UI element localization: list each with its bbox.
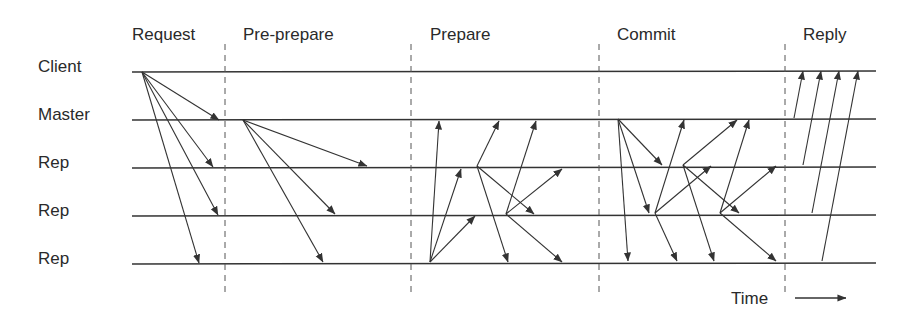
message-arrow-prepare: [477, 121, 499, 166]
phase-label-reply: Reply: [803, 26, 846, 43]
message-arrow-commit: [655, 213, 677, 261]
phase-label-pre-prepare: Pre-prepare: [243, 26, 334, 43]
message-arrow-prepare: [506, 169, 562, 214]
message-arrow-commit: [655, 166, 711, 213]
node-timelines: [132, 71, 876, 264]
message-arrow-pre-prepare: [243, 120, 323, 262]
message-arrow-commit: [683, 165, 739, 213]
time-axis-label: Time: [731, 290, 768, 307]
message-arrow-commit: [683, 165, 714, 261]
node-label-master: Master: [38, 106, 90, 123]
phase-label-request: Request: [132, 26, 195, 43]
timeline-replica-2: [132, 215, 876, 216]
message-arrow-commit: [618, 119, 649, 213]
message-arrow-prepare: [477, 166, 534, 214]
message-arrow-prepare: [430, 216, 475, 262]
message-arrow-reply: [822, 71, 858, 261]
pbft-sequence-diagram: [0, 0, 911, 328]
node-label-replica-3: Rep: [38, 250, 69, 267]
node-label-replica-2: Rep: [38, 202, 69, 219]
message-arrow-reply: [794, 71, 803, 118]
message-arrow-prepare: [477, 166, 508, 262]
node-label-replica-1: Rep: [38, 154, 69, 171]
message-arrow-request: [142, 72, 218, 215]
message-arrow-commit: [683, 120, 737, 165]
phase-label-commit: Commit: [617, 26, 676, 43]
phase-label-prepare: Prepare: [430, 26, 490, 43]
message-arrow-reply: [803, 71, 821, 165]
phase-dividers: [225, 44, 785, 294]
timeline-replica-1: [132, 167, 876, 168]
node-label-client: Client: [38, 58, 81, 75]
message-arrow-commit: [618, 119, 662, 165]
message-arrow-commit: [720, 213, 776, 261]
message-arrow-pre-prepare: [243, 120, 367, 166]
message-arrow-prepare: [506, 214, 562, 262]
message-arrow-prepare: [430, 121, 439, 262]
message-arrow-commit: [655, 120, 684, 213]
message-arrow-commit: [618, 119, 628, 261]
message-arrow-commit: [720, 166, 776, 213]
timeline-replica-3: [132, 263, 876, 264]
timeline-client: [132, 71, 876, 72]
message-arrow-request: [142, 72, 219, 120]
